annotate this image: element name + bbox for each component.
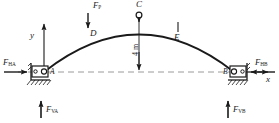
reaction-label-fhb: FHB [255, 58, 267, 67]
reaction-subscript-fhb: HB [260, 61, 267, 67]
load-subscript-fp: P [98, 4, 101, 10]
y-axis-label: y [30, 31, 34, 40]
reaction-subscript-fvb: VB [238, 108, 245, 114]
reaction-label-fvb: FVB [233, 105, 245, 114]
reaction-label-fha: FHA [3, 58, 16, 67]
x-axis-label: x [266, 75, 270, 84]
point-label-b: B [223, 68, 228, 76]
reaction-label-fva: FVA [46, 105, 58, 114]
point-label-c: C [136, 0, 142, 9]
reaction-subscript-fva: VA [51, 108, 58, 114]
support-a-pin [27, 63, 51, 85]
reaction-subscript-fha: HA [8, 61, 15, 67]
rise-dimension-label: 4 m [132, 44, 140, 56]
point-label-d: D [90, 29, 97, 38]
point-label-e: E [174, 33, 180, 42]
load-label-fp: FP [93, 1, 101, 10]
figure-canvas: y x D C E A B FP FHA FHB FVA FVB 4 m [0, 0, 279, 123]
point-label-a: A [50, 68, 55, 76]
support-b-pin [228, 63, 250, 85]
